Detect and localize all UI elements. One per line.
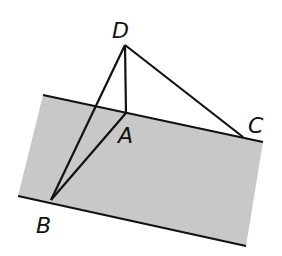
segment-DA <box>125 45 126 113</box>
point-label-C: C <box>248 113 264 138</box>
geometry-diagram: D A C B <box>0 0 282 256</box>
point-label-A: A <box>116 123 133 148</box>
point-label-D: D <box>112 18 129 43</box>
point-label-B: B <box>36 213 51 238</box>
